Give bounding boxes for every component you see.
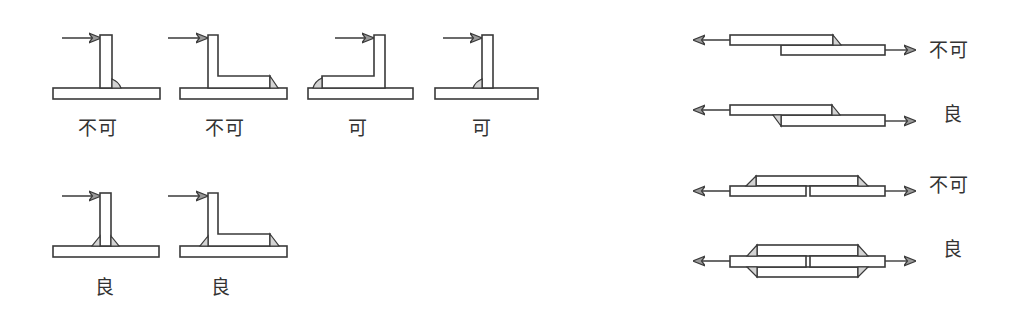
- right-plate: [810, 186, 885, 196]
- lap-joint-1: [694, 35, 915, 55]
- fillet-joint-4: [435, 35, 538, 99]
- base-plate: [180, 88, 287, 99]
- fillet-joint-6: [168, 193, 287, 257]
- verdict-label-f4: 可: [472, 113, 492, 140]
- fillet-weld-icon: [833, 35, 841, 45]
- lower-plate: [781, 115, 885, 126]
- fillet-weld-icon: [200, 236, 208, 246]
- vertical-plate: [100, 35, 112, 88]
- base-plate: [308, 88, 413, 99]
- fillet-weld-icon: [747, 245, 757, 256]
- right-plate: [810, 256, 885, 267]
- fillet-joint-3: [308, 35, 413, 99]
- base-plate: [180, 246, 287, 257]
- upper-plate: [730, 105, 832, 115]
- strap-joint-1: [694, 176, 915, 196]
- fillet-weld-icon: [832, 105, 840, 115]
- fillet-weld-icon: [112, 79, 121, 88]
- verdict-label-f2: 不可: [205, 113, 245, 140]
- fillet-weld-icon: [270, 234, 279, 246]
- lower-plate: [781, 45, 885, 55]
- left-plate: [730, 186, 806, 196]
- verdict-label-t2: 良: [943, 99, 963, 126]
- fillet-joint-2: [168, 35, 287, 99]
- fillet-weld-icon: [858, 176, 868, 186]
- verdict-label-t4: 良: [943, 234, 963, 261]
- base-plate: [53, 246, 159, 257]
- fillet-weld-icon: [858, 245, 868, 256]
- fillet-joint-5: [53, 193, 159, 257]
- fillet-weld-icon: [270, 76, 278, 88]
- fillet-weld-icon: [473, 79, 482, 88]
- fillet-weld-icon: [92, 236, 100, 246]
- vertical-plate: [482, 35, 493, 88]
- verdict-label-t1: 不可: [929, 35, 969, 62]
- fillet-weld-icon: [747, 267, 757, 277]
- top-strap: [756, 176, 858, 186]
- vertical-plate: [100, 193, 111, 246]
- top-strap: [757, 245, 858, 256]
- fillet-weld-icon: [858, 267, 868, 277]
- verdict-label-f1: 不可: [78, 113, 118, 140]
- fillet-weld-icon: [746, 176, 756, 186]
- base-plate: [53, 88, 160, 99]
- fillet-weld-icon: [313, 78, 322, 88]
- verdict-label-f3: 可: [348, 113, 368, 140]
- upper-plate: [730, 35, 833, 45]
- l-plate: [322, 35, 385, 88]
- lap-joint-2: [694, 105, 915, 126]
- strap-joint-2: [694, 245, 915, 277]
- l-plate: [208, 193, 270, 246]
- fillet-weld-icon: [773, 115, 781, 126]
- verdict-label-t3: 不可: [929, 170, 969, 197]
- fillet-weld-icon: [111, 236, 119, 246]
- verdict-label-f6: 良: [211, 272, 231, 299]
- weld-joint-diagram: [0, 0, 1027, 311]
- fillet-joint-1: [53, 35, 160, 99]
- bottom-strap: [757, 267, 858, 277]
- verdict-label-f5: 良: [95, 272, 115, 299]
- left-plate: [730, 256, 806, 267]
- l-plate: [208, 35, 270, 88]
- base-plate: [435, 88, 538, 99]
